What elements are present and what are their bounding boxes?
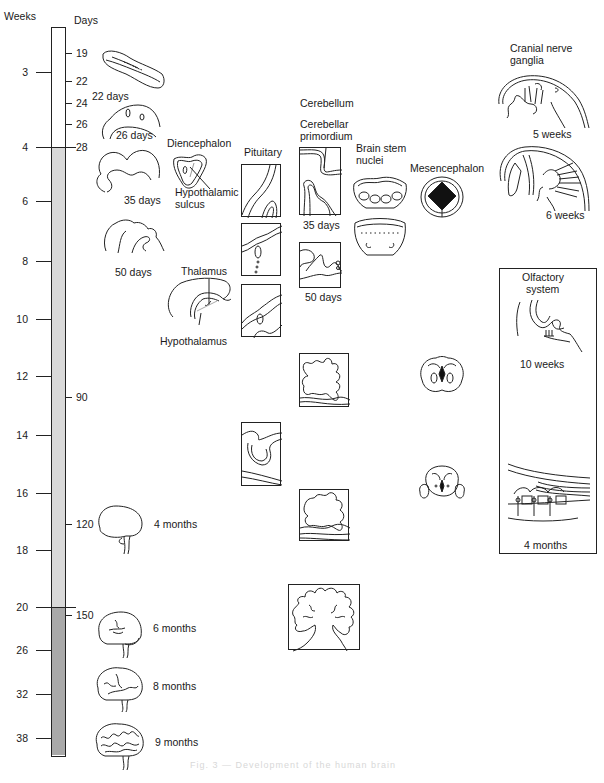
brain-50-days-illustration <box>102 215 164 255</box>
week-tick-mark <box>36 201 51 202</box>
mesencephalon-illustration-1 <box>420 176 464 218</box>
week-tick-label: 38 <box>6 732 28 744</box>
cranial-nerve-title-2: ganglia <box>510 54 544 66</box>
day-tick-label: 28 <box>76 141 88 153</box>
cerebellar-primordium-label-2: primordium <box>300 130 353 142</box>
hypothalamic-sulcus-label: Hypothalamic <box>175 186 239 198</box>
cerebellum-panel-35-days <box>299 147 341 215</box>
week-tick-mark <box>36 376 51 377</box>
week-tick-label: 3 <box>6 66 28 78</box>
pituitary-panel-2 <box>241 223 281 276</box>
stage-label: 6 months <box>153 622 196 634</box>
pituitary-panel-1 <box>241 164 281 217</box>
day-tick-label: 150 <box>76 609 94 621</box>
week-tick-mark <box>36 650 51 651</box>
olfactory-stage-label: 10 weeks <box>520 358 564 370</box>
cerebellum-panel-3 <box>299 353 349 407</box>
cerebellum-panel-50-days <box>299 242 341 288</box>
stage-label: 4 months <box>154 518 197 530</box>
week-tick-label: 26 <box>6 644 28 656</box>
stage-label: 9 months <box>155 736 198 748</box>
day-tick-mark <box>66 103 72 104</box>
mesencephalon-illustration-3 <box>418 464 468 506</box>
week-tick-mark <box>36 261 51 262</box>
cerebellum-stage-label: 35 days <box>303 219 340 231</box>
day-tick-mark <box>66 615 72 616</box>
day-tick-label: 24 <box>76 97 88 109</box>
day-tick-mark <box>66 397 72 398</box>
pituitary-panel-4 <box>241 422 281 486</box>
brain-6-months-illustration <box>95 610 145 658</box>
week-tick-label: 10 <box>6 313 28 325</box>
week-tick-label: 6 <box>6 195 28 207</box>
stage-label: 22 days <box>92 90 129 102</box>
week-tick-label: 12 <box>6 370 28 382</box>
cerebellar-primordium-label: Cerebellar <box>300 118 348 130</box>
week-tick-mark <box>36 435 51 436</box>
week-tick-mark <box>36 493 51 494</box>
cerebellum-panel-5 <box>288 584 360 650</box>
brain-stem-illustration-2 <box>353 217 407 257</box>
early-fetal-segment <box>52 147 65 607</box>
week-tick-mark <box>36 319 51 320</box>
week-tick-label: 8 <box>6 255 28 267</box>
day-tick-label: 22 <box>76 75 88 87</box>
week-tick-mark <box>36 72 51 73</box>
day-tick-label: 19 <box>76 47 88 59</box>
week-tick-label: 16 <box>6 487 28 499</box>
hypothalamic-sulcus-label-2: sulcus <box>175 198 205 210</box>
brain-22-days-illustration <box>100 48 166 92</box>
day-tick-label: 120 <box>76 518 94 530</box>
cerebellum-panel-4 <box>299 489 349 541</box>
brain-8-months-illustration <box>94 666 146 712</box>
day-tick-label: 90 <box>76 391 88 403</box>
diencephalon-late-illustration <box>165 277 237 325</box>
day-tick-mark <box>66 524 72 525</box>
week-tick-mark <box>36 607 76 608</box>
cerebellum-title: Cerebellum <box>300 97 354 109</box>
pituitary-panel-3 <box>241 284 281 337</box>
day-tick-mark <box>66 81 72 82</box>
brain-4-months-illustration <box>96 504 144 556</box>
week-tick-mark <box>36 550 51 551</box>
cerebellum-stage-label: 50 days <box>305 291 342 303</box>
stage-label: 50 days <box>115 266 152 278</box>
week-tick-label: 4 <box>6 141 28 153</box>
week-tick-label: 14 <box>6 429 28 441</box>
cranial-nerve-title: Cranial nerve <box>510 42 572 54</box>
pituitary-title: Pituitary <box>244 146 282 158</box>
figure-caption: Fig. 3 — Development of the human brain <box>190 760 396 770</box>
thalamus-label: Thalamus <box>181 265 227 277</box>
week-tick-label: 32 <box>6 688 28 700</box>
olfactory-10-weeks-illustration <box>514 300 584 356</box>
mesencephalon-illustration-2 <box>418 354 466 396</box>
embryonic-segment <box>52 28 65 147</box>
brain-stem-illustration-1 <box>352 174 408 210</box>
gestation-bar <box>51 27 66 757</box>
brain-stem-title: Brain stem <box>356 142 406 154</box>
week-tick-label: 18 <box>6 544 28 556</box>
mesencephalon-title: Mesencephalon <box>410 162 484 174</box>
week-tick-label: 20 <box>6 601 28 613</box>
diencephalon-title: Diencephalon <box>167 137 231 149</box>
olfactory-title-2: system <box>526 283 559 295</box>
week-tick-mark <box>36 738 51 739</box>
day-tick-mark <box>66 124 72 125</box>
brain-stem-title-2: nuclei <box>356 154 383 166</box>
stage-label: 26 days <box>116 129 153 141</box>
stage-label: 35 days <box>124 194 161 206</box>
hypothalamus-label: Hypothalamus <box>160 335 227 347</box>
cranial-nerve-6-weeks-illustration <box>497 145 593 213</box>
olfactory-stage-label: 4 months <box>524 539 567 551</box>
olfactory-4-months-illustration <box>508 464 590 530</box>
day-tick-label: 26 <box>76 118 88 130</box>
days-axis-header: Days <box>74 14 98 26</box>
cranial-nerve-stage-label: 5 weeks <box>533 128 572 140</box>
brain-9-months-illustration <box>93 722 147 770</box>
cranial-nerve-5-weeks-illustration <box>495 74 591 130</box>
cranial-nerve-stage-label: 6 weeks <box>546 209 585 221</box>
day-tick-mark <box>66 53 72 54</box>
olfactory-title: Olfactory <box>522 271 564 283</box>
week-tick-mark <box>36 694 51 695</box>
day-tick-mark <box>66 147 72 148</box>
